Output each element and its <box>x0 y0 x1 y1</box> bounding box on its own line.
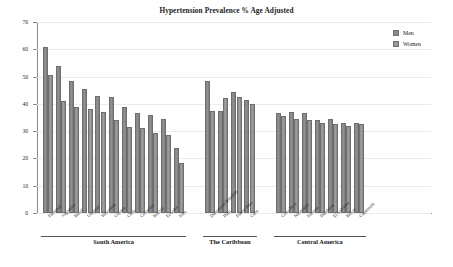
region-underline <box>203 236 257 237</box>
region-underline <box>41 236 186 237</box>
x-tick-label: Uruguay <box>86 204 101 219</box>
legend-swatch-icon <box>393 41 399 47</box>
legend-swatch-icon <box>393 30 399 36</box>
chart-legend: MenWomen <box>393 27 421 49</box>
x-tick-label: Chile <box>126 208 136 218</box>
x-tick-label: Cuba <box>249 208 259 218</box>
x-axis-category-labels: ParaguayArgentinaBrazilUruguayVenezuelaG… <box>0 0 453 267</box>
region-label: South America <box>74 238 154 245</box>
legend-label: Women <box>403 41 421 47</box>
x-tick-label: Peru <box>178 209 187 218</box>
region-label: Central America <box>280 238 360 245</box>
chart-container: Hypertension Prevalence % Age Adjusted P… <box>0 0 453 267</box>
x-tick-label: Haiti <box>222 209 232 219</box>
x-tick-label: Bolivia <box>152 206 165 219</box>
legend-label: Men <box>403 30 414 36</box>
legend-item-men[interactable]: Men <box>393 27 421 38</box>
x-tick-label: Paraguay <box>47 203 62 218</box>
region-underline <box>274 236 367 237</box>
legend-item-women[interactable]: Women <box>393 38 421 49</box>
x-tick-label: Brazil <box>73 207 84 218</box>
region-label: The Caribbean <box>190 238 270 245</box>
x-tick-label: Guatemala <box>358 201 375 218</box>
x-tick-label: Ecuador <box>165 204 179 218</box>
x-tick-label: Belize <box>345 207 357 219</box>
